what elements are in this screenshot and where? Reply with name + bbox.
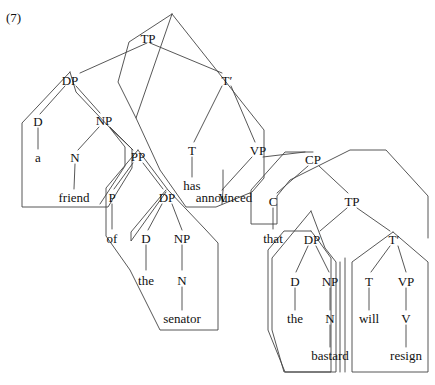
tp-main-outline: [118, 14, 172, 118]
node-tp-embedded: TP: [344, 194, 359, 209]
node-d-a: D: [33, 114, 42, 129]
example-number: (7): [6, 10, 21, 25]
node-tbar-embedded: T′: [389, 232, 400, 247]
branch-cp-tp: [319, 166, 348, 193]
branch-dpbas-d: [296, 246, 308, 272]
branch-tpemb-tbar: [357, 208, 390, 231]
branch-dp-np: [76, 86, 100, 113]
node-pp-of: PP: [131, 149, 145, 164]
branch-pp-dp: [143, 163, 163, 189]
leaf-that: that: [263, 231, 283, 246]
tree-canvas: (7) TP DP D NP N PP P DP D NP N T′ T VP …: [0, 0, 435, 385]
cp-outline: [251, 150, 428, 238]
node-tbar-main: T′: [222, 73, 233, 88]
branch-tbar-t: [194, 86, 222, 142]
node-cp: CP: [305, 152, 321, 167]
branch-tbaremb-vp: [398, 246, 406, 272]
node-np-friend: NP: [96, 113, 113, 128]
node-c-that: C: [269, 194, 278, 209]
node-d-the-bastard: D: [290, 274, 299, 289]
node-d-the-senator: D: [141, 231, 150, 246]
node-vp-main: VP: [250, 143, 267, 158]
node-np-bastard: NP: [322, 274, 339, 289]
branch-tpemb-dp: [320, 208, 347, 231]
node-vp-embedded: VP: [398, 274, 415, 289]
branch-tp-dp: [80, 43, 147, 73]
leaf-of: of: [107, 231, 119, 246]
branch-cp-c: [277, 166, 308, 193]
leaf-the-bastard: the: [287, 311, 303, 326]
branch-tp-tbar: [150, 43, 222, 73]
branch-dpsen-np: [172, 204, 182, 230]
node-tp-main: TP: [140, 31, 155, 46]
node-labels: TP DP D NP N PP P DP D NP N T′ T VP V CP…: [33, 31, 414, 326]
node-t-has: T: [188, 143, 196, 158]
leaf-senator: senator: [163, 311, 201, 326]
leaf-the-senator: the: [138, 273, 154, 288]
node-dp-senator: DP: [159, 190, 176, 205]
node-n-friend: N: [70, 150, 80, 165]
node-dp-bastard: DP: [304, 232, 321, 247]
node-p-of: P: [108, 190, 115, 205]
syntax-tree-figure: (7) TP DP D NP N PP P DP D NP N T′ T VP …: [0, 0, 435, 385]
node-np-senator: NP: [174, 231, 191, 246]
leaf-resign: resign: [390, 348, 422, 363]
node-v-resign: V: [401, 311, 411, 326]
branch-n-friend: [74, 164, 75, 189]
leaf-a: a: [35, 150, 41, 165]
branch-vp-v: [222, 157, 252, 190]
leaf-friend: friend: [58, 190, 90, 205]
node-n-bastard: N: [325, 311, 335, 326]
leaf-will: will: [359, 311, 380, 326]
node-n-senator: N: [177, 273, 187, 288]
branch-tbaremb-t: [371, 246, 390, 272]
branch-np-n: [78, 127, 99, 150]
node-t-will: T: [365, 274, 373, 289]
leaf-announced: announced: [196, 190, 253, 205]
node-dp-subject: DP: [62, 73, 79, 88]
leaf-bastard: bastard: [311, 348, 349, 363]
branch-np-pp: [110, 127, 133, 150]
